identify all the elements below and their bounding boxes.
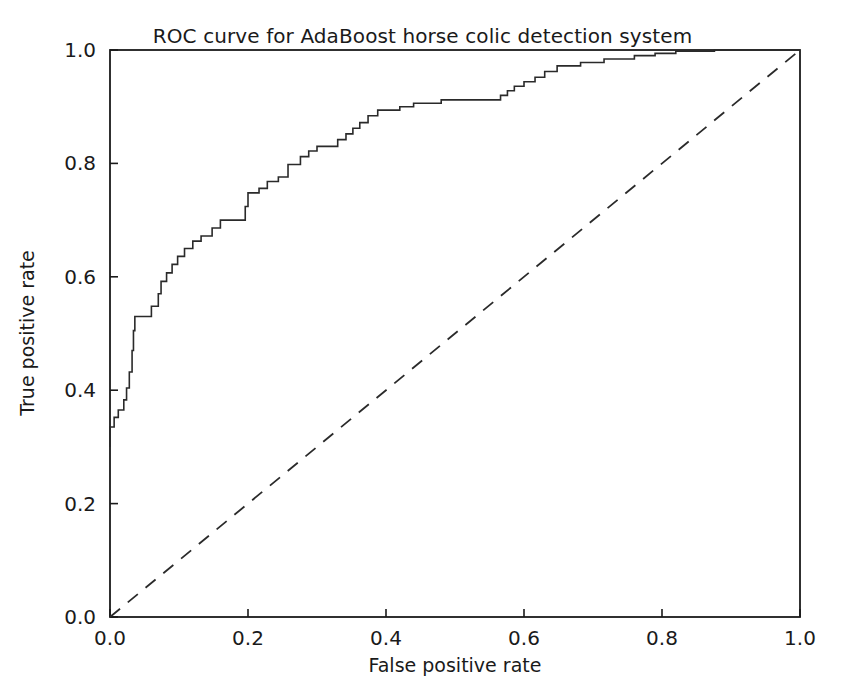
random-reference-dashed-line — [110, 50, 800, 617]
y-tick-label: 0.8 — [64, 151, 96, 175]
y-axis-tick-labels: 0.00.20.40.60.81.0 — [64, 38, 96, 629]
roc-curve-line — [110, 50, 800, 447]
y-axis-title: True positive rate — [16, 250, 38, 417]
y-tick-label: 0.2 — [64, 492, 96, 516]
y-tick-label: 0.0 — [64, 605, 96, 629]
x-axis-ticks — [110, 609, 800, 617]
x-tick-label: 1.0 — [784, 626, 816, 650]
y-tick-label: 1.0 — [64, 38, 96, 62]
y-tick-label: 0.6 — [64, 265, 96, 289]
x-axis-title: False positive rate — [369, 654, 542, 676]
y-tick-label: 0.4 — [64, 378, 96, 402]
roc-chart-figure: ROC curve for AdaBoost horse colic detec… — [0, 0, 845, 700]
x-tick-label: 0.4 — [370, 626, 402, 650]
x-axis-tick-labels: 0.00.20.40.60.81.0 — [94, 626, 816, 650]
plot-canvas: 0.00.20.40.60.81.0 0.00.20.40.60.81.0 Fa… — [0, 0, 845, 700]
y-axis-ticks — [110, 50, 118, 617]
x-tick-label: 0.6 — [508, 626, 540, 650]
x-tick-label: 0.8 — [646, 626, 678, 650]
x-tick-label: 0.2 — [232, 626, 264, 650]
x-tick-label: 0.0 — [94, 626, 126, 650]
